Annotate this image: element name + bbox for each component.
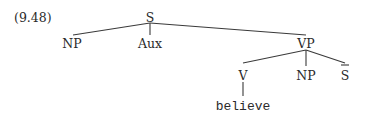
node-np-object: NP (296, 68, 315, 83)
leaf-believe: believe (216, 99, 271, 114)
syntax-tree: (9.48) S NP Aux VP V NP S believe (0, 0, 370, 119)
node-np-subject: NP (62, 36, 81, 51)
node-s: S (146, 10, 155, 25)
edge-s-vp (150, 23, 306, 35)
node-vp: VP (296, 36, 314, 51)
edge-vp-v (243, 50, 306, 63)
edge-s-np (73, 23, 150, 35)
node-v: V (237, 68, 248, 83)
example-number: (9.48) (14, 10, 52, 25)
edge-vp-sbar (306, 50, 345, 63)
node-s-bar: S (341, 68, 350, 83)
node-aux: Aux (137, 36, 162, 51)
